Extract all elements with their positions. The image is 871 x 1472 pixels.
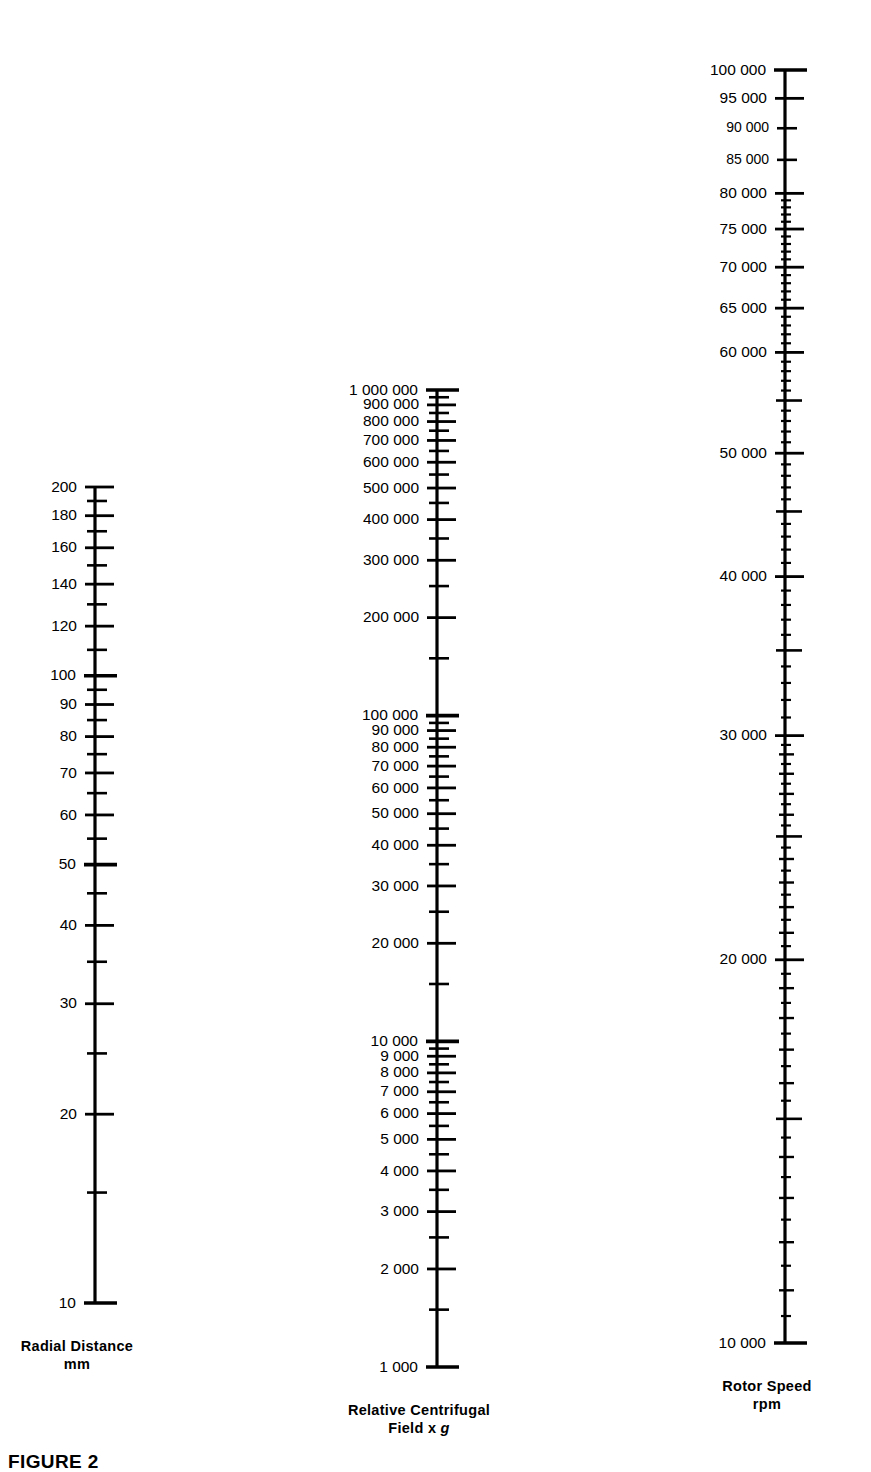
tick-label: 600 000 (363, 453, 419, 470)
tick-label: 200 000 (363, 608, 419, 625)
tick-label: 70 000 (720, 258, 768, 275)
axis-title-line2: Field x g (388, 1420, 450, 1436)
axis-title-line2: rpm (753, 1396, 781, 1412)
tick-label: 20 (60, 1105, 78, 1122)
scale-relative-centrifugal-field: 1 000 000900 000800 000700 000600 000500… (348, 381, 490, 1436)
axis-title-line2: mm (64, 1356, 90, 1372)
tick-label: 7 000 (380, 1082, 419, 1099)
tick-label: 500 000 (363, 479, 419, 496)
axis-title-line1: Relative Centrifugal (348, 1402, 490, 1418)
tick-label: 70 (60, 764, 78, 781)
tick-label: 75 000 (720, 220, 768, 237)
tick-label: 160 (51, 538, 77, 555)
tick-label: 60 000 (372, 779, 420, 796)
tick-label: 90 (60, 695, 78, 712)
tick-label: 300 000 (363, 551, 419, 568)
tick-label: 900 000 (363, 395, 419, 412)
tick-label: 65 000 (720, 299, 768, 316)
tick-label: 80 000 (720, 184, 768, 201)
tick-label: 400 000 (363, 510, 419, 527)
tick-label: 95 000 (720, 89, 768, 106)
axis-title-line1: Rotor Speed (722, 1378, 812, 1394)
tick-label: 80 000 (372, 738, 420, 755)
tick-label: 20 000 (720, 950, 768, 967)
tick-label: 90 000 (372, 721, 420, 738)
tick-label: 140 (51, 575, 77, 592)
tick-label: 85 000 (726, 151, 769, 167)
tick-label: 800 000 (363, 412, 419, 429)
tick-label: 40 000 (720, 567, 768, 584)
tick-label: 60 000 (720, 343, 768, 360)
tick-label: 2 000 (380, 1260, 419, 1277)
tick-label: 40 (60, 916, 78, 933)
tick-label: 120 (51, 617, 77, 634)
tick-label: 50 000 (720, 444, 768, 461)
tick-label: 5 000 (380, 1130, 419, 1147)
axis-title-line1: Radial Distance (21, 1338, 134, 1354)
tick-label: 1 000 (379, 1358, 418, 1375)
tick-label: 20 000 (372, 934, 420, 951)
tick-label: 700 000 (363, 431, 419, 448)
tick-label: 30 000 (720, 726, 768, 743)
scale-radial-distance: 200180160140120100908070605040302010Radi… (21, 478, 134, 1372)
tick-label: 30 (60, 994, 78, 1011)
tick-label: 90 000 (726, 119, 769, 135)
tick-label: 80 (60, 727, 78, 744)
tick-label: 8 000 (380, 1063, 419, 1080)
tick-label: 3 000 (380, 1202, 419, 1219)
tick-label: 9 000 (380, 1047, 419, 1064)
tick-label: 6 000 (380, 1104, 419, 1121)
figure-caption: FIGURE 2 (8, 1451, 99, 1472)
tick-label: 4 000 (380, 1162, 419, 1179)
tick-label: 10 (59, 1294, 77, 1311)
tick-label: 10 000 (719, 1334, 767, 1351)
tick-label: 50 000 (372, 804, 420, 821)
scale-rotor-speed: 100 00095 00090 00085 00080 00075 00070 … (710, 61, 812, 1412)
tick-label: 100 (50, 666, 76, 683)
tick-label: 40 000 (372, 836, 420, 853)
tick-label: 50 (59, 855, 77, 872)
tick-label: 60 (60, 806, 78, 823)
tick-label: 30 000 (372, 877, 420, 894)
tick-label: 100 000 (710, 61, 766, 78)
tick-label: 200 (51, 478, 77, 495)
tick-label: 180 (51, 506, 77, 523)
tick-label: 70 000 (372, 757, 420, 774)
